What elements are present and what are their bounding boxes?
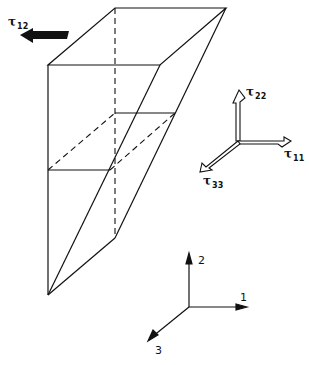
stress-axes — [200, 90, 291, 172]
axis-2-label: 2 — [198, 255, 205, 266]
axis-3-line — [152, 307, 189, 337]
tau11-label: τ11 — [284, 148, 304, 160]
tau22-arrow-icon — [233, 90, 245, 141]
axis-3-label: 3 — [155, 345, 162, 356]
axis-1-label: 1 — [240, 292, 247, 303]
diagram-canvas — [0, 0, 309, 365]
axis-1-arrowhead-icon — [236, 304, 247, 310]
prism-bottom-edge — [48, 238, 115, 295]
tau11-arrow-icon — [238, 137, 291, 147]
tau33-label: τ33 — [203, 175, 223, 187]
tau22-label: τ22 — [246, 86, 266, 98]
hidden-mid-right-edge — [110, 113, 175, 170]
prism — [48, 8, 226, 295]
axis-3-arrowhead-icon — [148, 330, 158, 341]
hidden-mid-left-edge — [48, 113, 115, 170]
axis-2-arrowhead-icon — [186, 253, 192, 264]
tau33-arrow-icon — [200, 141, 240, 172]
prism-top-face — [48, 8, 226, 65]
hidden-edges — [48, 8, 175, 238]
tau12-label: τ12 — [8, 16, 28, 28]
